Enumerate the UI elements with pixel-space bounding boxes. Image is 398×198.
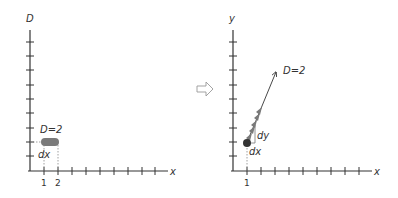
diagram-canvas: D x D=2 dx 1 2 — [0, 0, 398, 198]
dx-label: dx — [249, 146, 261, 157]
right-annotation-d2: D=2 — [283, 65, 305, 76]
left-dx-label: dx — [38, 149, 50, 160]
right-x-tick-label-1: 1 — [244, 178, 250, 188]
left-x-axis-label: x — [169, 166, 176, 177]
left-x-tick-label-1: 1 — [41, 178, 47, 188]
left-y-axis-label: D — [26, 13, 34, 24]
dy-label: dy — [257, 130, 270, 141]
left-panel: D x D=2 dx 1 2 — [26, 13, 176, 188]
left-x-tick-label-2: 2 — [55, 178, 61, 188]
right-y-axis-label: y — [228, 13, 236, 24]
left-annotation-d2: D=2 — [40, 124, 62, 135]
d-interval-blob — [41, 138, 59, 146]
right-panel: y x D=2 dy dx 1 — [228, 13, 380, 188]
hollow-right-arrow-icon — [197, 82, 213, 96]
right-x-axis-label: x — [373, 166, 380, 177]
